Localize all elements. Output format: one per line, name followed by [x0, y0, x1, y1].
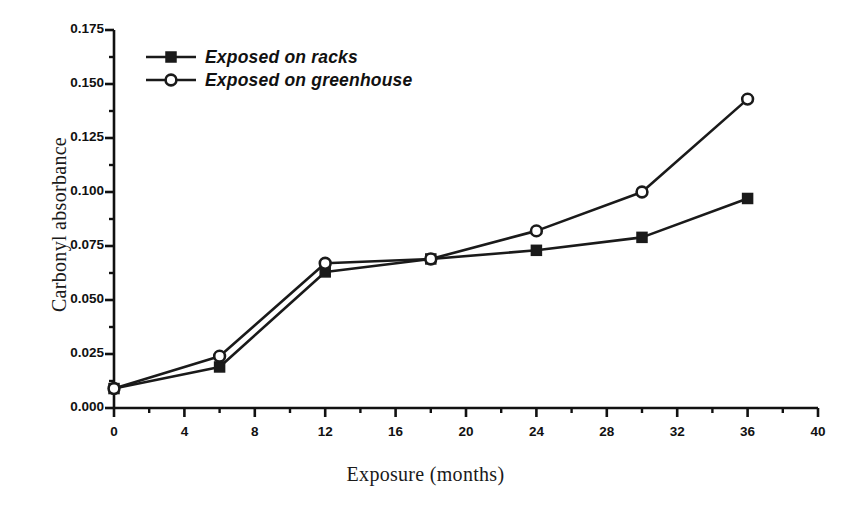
x-tick-label: 12	[295, 424, 355, 439]
x-tick-label: 8	[225, 424, 285, 439]
y-tick-label: 0.050	[20, 291, 104, 306]
data-point-marker	[637, 187, 648, 198]
y-tick-label: 0.075	[20, 237, 104, 252]
y-tick-label: 0.000	[20, 399, 104, 414]
y-axis-title: Carbonyl absorbance	[48, 80, 71, 370]
y-tick-label: 0.025	[20, 345, 104, 360]
data-series-group	[109, 94, 753, 394]
legend-label-racks: Exposed on racks	[205, 47, 358, 68]
x-tick-label: 40	[788, 424, 848, 439]
y-tick-label: 0.150	[20, 75, 104, 90]
y-axis-ticks	[105, 30, 114, 408]
x-tick-label: 32	[647, 424, 707, 439]
x-axis-title: Exposure (months)	[0, 463, 851, 486]
series-line	[114, 99, 748, 388]
x-tick-label: 28	[577, 424, 637, 439]
x-tick-label: 20	[436, 424, 496, 439]
y-tick-label: 0.100	[20, 183, 104, 198]
legend-label-greenhouse: Exposed on greenhouse	[205, 70, 412, 91]
data-point-marker	[531, 245, 541, 255]
x-tick-label: 4	[154, 424, 214, 439]
data-point-marker	[531, 225, 542, 236]
y-tick-label: 0.175	[20, 21, 104, 36]
x-tick-label: 36	[718, 424, 778, 439]
data-point-marker	[637, 232, 647, 242]
data-point-marker	[215, 362, 225, 372]
data-point-marker	[742, 94, 753, 105]
x-tick-label: 24	[506, 424, 566, 439]
legend-sample-marker	[166, 75, 177, 86]
data-point-marker	[109, 383, 120, 394]
data-point-marker	[425, 254, 436, 265]
data-point-marker	[320, 258, 331, 269]
chart-figure: Exposure (months) Carbonyl absorbance 0.…	[0, 0, 851, 512]
legend-markers	[146, 52, 196, 85]
x-tick-label: 16	[366, 424, 426, 439]
data-point-marker	[214, 351, 225, 362]
legend-sample-marker	[166, 52, 176, 62]
x-axis-ticks	[114, 408, 818, 417]
data-point-marker	[743, 193, 753, 203]
y-tick-label: 0.125	[20, 129, 104, 144]
x-tick-label: 0	[84, 424, 144, 439]
